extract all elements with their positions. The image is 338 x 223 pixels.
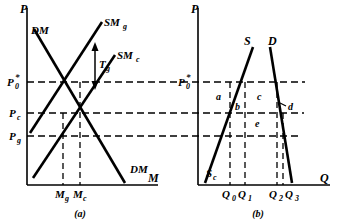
quantity-tick-mc-sub: c [83, 194, 87, 203]
price-tick-p0b-star: * [186, 72, 191, 82]
curve-label-dm-top: DM [30, 24, 50, 36]
curve-label-d: D [267, 34, 277, 48]
area-label-b: b [235, 101, 240, 112]
quantity-tick-mc: M c [72, 188, 87, 203]
quantity-tick-q3: Q 3 [285, 188, 299, 203]
figure-container: P M DM DM SM g SM c T g P 0 * P c P g [0, 0, 338, 223]
quantity-tick-q3-sub: 3 [294, 194, 299, 203]
price-tick-pc-main: P [9, 107, 16, 119]
curve-label-sc-sub: c [213, 173, 217, 182]
quantity-tick-mg: M g [54, 188, 69, 203]
panel-a-y-axis-label: P [20, 2, 28, 16]
curve-d [270, 47, 292, 183]
curve-label-smc-main: SM [117, 49, 134, 61]
panel-b-caption: (b) [252, 208, 264, 220]
price-tick-pg: P g [9, 130, 21, 145]
economics-diagram: P M DM DM SM g SM c T g P 0 * P c P g [0, 0, 338, 223]
curve-label-smc: SM c [117, 49, 140, 64]
price-tick-p0-sub: 0 [15, 82, 19, 91]
panel-b-x-axis-label: Q [320, 171, 329, 185]
panel-a: P M DM DM SM g SM c T g P 0 * P c P g [7, 2, 305, 220]
price-tick-p0-star: * [15, 72, 20, 82]
price-tick-p0b-main: P [178, 76, 185, 88]
leader-line-d [280, 103, 286, 106]
panel-a-caption: (a) [74, 208, 86, 220]
quantity-tick-q0: Q 0 [222, 188, 236, 203]
price-tick-p0b: P 0 * [178, 72, 191, 91]
price-tick-pc: P c [9, 107, 21, 122]
curve-label-dm-bottom: DM [129, 163, 149, 175]
price-tick-pg-sub: g [16, 136, 21, 145]
area-label-e: e [255, 118, 260, 129]
tax-wedge-label-sub: g [105, 64, 110, 73]
quantity-tick-q0-sub: 0 [232, 194, 236, 203]
price-tick-pc-sub: c [17, 113, 21, 122]
quantity-tick-mg-sub: g [64, 194, 69, 203]
curve-label-smc-sub: c [136, 55, 140, 64]
panel-b: P Q S D S c P 0 * Q 0 Q 1 Q 2 Q 3 [178, 2, 330, 220]
price-tick-p0b-sub: 0 [186, 82, 190, 91]
quantity-tick-q0-main: Q [222, 188, 230, 200]
curve-s [205, 47, 253, 183]
quantity-tick-q1-sub: 1 [248, 194, 252, 203]
curve-smc [33, 55, 115, 178]
curve-label-smg-sub: g [122, 22, 127, 31]
curve-label-sc: S c [206, 167, 217, 182]
curve-label-smg: SM g [104, 16, 127, 31]
quantity-tick-q1-main: Q [238, 188, 246, 200]
quantity-tick-q3-main: Q [285, 188, 293, 200]
curve-label-sc-main: S [206, 167, 212, 179]
quantity-tick-q2: Q 2 [269, 188, 283, 203]
quantity-tick-q2-main: Q [269, 188, 277, 200]
price-tick-p0-main: P [7, 76, 14, 88]
panel-a-x-axis-label: M [147, 171, 159, 185]
price-tick-pg-main: P [9, 130, 16, 142]
panel-b-y-axis-label: P [191, 2, 199, 16]
curve-label-smg-main: SM [104, 16, 121, 28]
price-tick-p0: P 0 * [7, 72, 20, 91]
quantity-tick-q1: Q 1 [238, 188, 252, 203]
curve-label-s: S [244, 34, 251, 48]
quantity-tick-q2-sub: 2 [278, 194, 283, 203]
area-label-c: c [257, 91, 262, 102]
area-label-d: d [288, 101, 294, 112]
tax-wedge-arrow-head-up [92, 42, 99, 51]
area-label-a: a [216, 91, 221, 102]
